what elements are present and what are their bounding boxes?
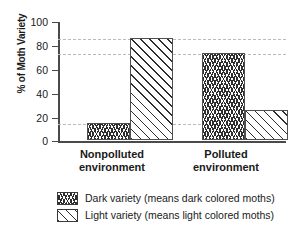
legend-label-light: Light variety (means light colored moths… bbox=[85, 210, 274, 221]
y-tick-0 bbox=[52, 141, 59, 142]
legend-label-dark: Dark variety (means dark colored moths) bbox=[85, 193, 275, 204]
x-label-nonpolluted-line1: Nonpolluted bbox=[50, 148, 174, 161]
y-tick-label-60: 60 bbox=[18, 65, 48, 75]
legend-item-dark: Dark variety (means dark colored moths) bbox=[57, 190, 275, 207]
x-label-polluted-line1: Polluted bbox=[164, 148, 288, 161]
plot-area bbox=[58, 22, 286, 140]
y-tick-label-80: 80 bbox=[18, 41, 48, 51]
y-tick-label-100: 100 bbox=[18, 17, 48, 27]
x-label-nonpolluted: Nonpolluted environment bbox=[50, 148, 174, 173]
zigzag-hatch-swatch-icon bbox=[57, 192, 78, 205]
bar-chart: % of Moth Variety 100 80 60 40 20 0 Nonp… bbox=[0, 0, 300, 239]
y-tick-label-0: 0 bbox=[18, 136, 48, 146]
bar-nonpolluted-dark bbox=[87, 123, 130, 140]
legend-item-light: Light variety (means light colored moths… bbox=[57, 207, 275, 224]
y-tick-label-40: 40 bbox=[18, 89, 48, 99]
bar-polluted-light bbox=[245, 110, 288, 140]
x-axis-line bbox=[58, 141, 286, 143]
bar-polluted-dark bbox=[202, 53, 245, 140]
y-tick-label-20: 20 bbox=[18, 113, 48, 123]
x-label-polluted: Polluted environment bbox=[164, 148, 288, 173]
diagonal-hatch-swatch-icon bbox=[57, 209, 78, 222]
x-label-polluted-line2: environment bbox=[164, 161, 288, 174]
legend: Dark variety (means dark colored moths) … bbox=[57, 190, 275, 224]
x-label-nonpolluted-line2: environment bbox=[50, 161, 174, 174]
bar-nonpolluted-light bbox=[130, 38, 173, 140]
